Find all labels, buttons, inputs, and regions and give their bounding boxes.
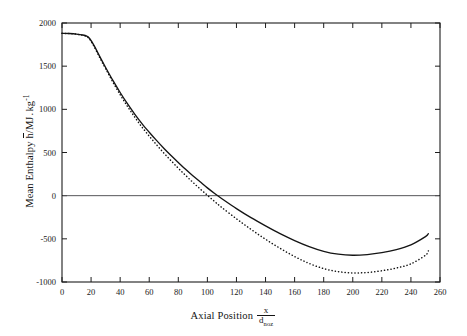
x-tick-label: 240 (405, 287, 418, 297)
y-tick-label: 2000 (39, 18, 56, 28)
x-tick-label: 120 (230, 287, 243, 297)
x-axis-title-numerator: x (257, 306, 276, 315)
y-axis-title-text: Mean Enthalpy (24, 141, 35, 207)
x-tick-label: 180 (317, 287, 330, 297)
x-tick-label: 200 (346, 287, 359, 297)
y-axis-unit-sep: . (24, 112, 35, 117)
y-axis-title-inner: Mean Enthalpy h/MJ.kg-1 (24, 94, 35, 208)
y-tick-label: 0 (52, 191, 56, 201)
x-tick-label: 160 (288, 287, 301, 297)
x-tick-label: 20 (87, 287, 96, 297)
y-tick-label: -1000 (36, 277, 56, 287)
x-tick-label: 220 (375, 287, 388, 297)
y-axis-unit-exponent: -1 (22, 94, 31, 101)
y-axis-tick-labels: 2000150010005000-500-1000 (36, 18, 56, 287)
enthalpy-chart-figure: 020406080100120140160180200220240260 200… (0, 0, 467, 336)
y-tick-label: 1000 (39, 104, 56, 114)
y-tick-label: -500 (40, 234, 56, 244)
x-tick-label: 80 (174, 287, 183, 297)
curve-solid (62, 33, 428, 255)
x-axis-title-denominator-sub: noz (264, 320, 274, 327)
plot-frame (62, 23, 440, 282)
x-tick-label: 260 (434, 287, 447, 297)
x-axis-title-denominator: dnoz (257, 315, 276, 327)
y-axis-unit-num: /MJ (24, 116, 35, 133)
x-axis-title: Axial Position x dnoz (0, 306, 467, 328)
x-tick-label: 40 (116, 287, 125, 297)
y-axis-symbol-overbar: h (24, 133, 35, 138)
x-tick-label: 60 (145, 287, 154, 297)
curve-dotted (62, 33, 428, 273)
x-tick-label: 140 (259, 287, 272, 297)
x-axis-title-fraction: x dnoz (257, 306, 276, 328)
x-axis-ticks (62, 23, 440, 282)
plot-frame-rect (62, 23, 440, 282)
y-axis-ticks (62, 23, 440, 282)
y-axis-title: Mean Enthalpy h/MJ.kg-1 (19, 31, 37, 271)
data-curves (62, 33, 428, 273)
y-tick-label: 1500 (39, 61, 56, 71)
x-tick-label: 100 (201, 287, 214, 297)
x-tick-label: 0 (60, 287, 64, 297)
y-axis-unit-den: kg (24, 101, 35, 112)
y-axis-symbol: h (24, 133, 35, 138)
x-axis-tick-labels: 020406080100120140160180200220240260 (60, 287, 447, 297)
plot-canvas: 020406080100120140160180200220240260 200… (0, 0, 467, 336)
x-axis-title-text: Axial Position (191, 310, 253, 321)
y-tick-label: 500 (43, 148, 56, 158)
